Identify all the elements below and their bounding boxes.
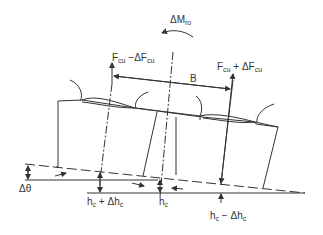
- height-center-label: hc: [159, 197, 168, 208]
- moment-symbol: ΔM: [170, 14, 185, 25]
- force-delta: −ΔF: [126, 52, 147, 63]
- center-axis: [160, 52, 173, 197]
- left-tyre-outline: [56, 100, 82, 167]
- span-label: B: [190, 74, 197, 84]
- height-delta: + Δh: [96, 196, 120, 207]
- force-delta: + ΔF: [231, 61, 255, 72]
- moment-subscript: ro: [185, 19, 191, 26]
- force-subscript: cu: [223, 66, 230, 73]
- force-subscript: cu: [118, 57, 125, 64]
- height-delta: − Δh: [219, 210, 243, 221]
- angle-label: Δθ: [19, 184, 31, 194]
- force-delta-subscript: cu: [147, 57, 154, 64]
- force-right-label: Fcu + ΔFcu: [217, 62, 262, 73]
- moment-label: ΔMro: [170, 15, 191, 26]
- height-right-label: hc − Δhc: [210, 211, 246, 222]
- moment-arc: [162, 31, 193, 37]
- height-delta-subscript: c: [120, 201, 124, 208]
- force-delta-subscript: cu: [255, 66, 262, 73]
- height-subscript: c: [165, 201, 169, 208]
- force-left-label: Fcu −ΔFcu: [112, 53, 154, 64]
- height-left-label: hc + Δhc: [87, 197, 123, 208]
- height-delta-subscript: c: [243, 215, 247, 222]
- tilted-contact-line: [25, 164, 305, 193]
